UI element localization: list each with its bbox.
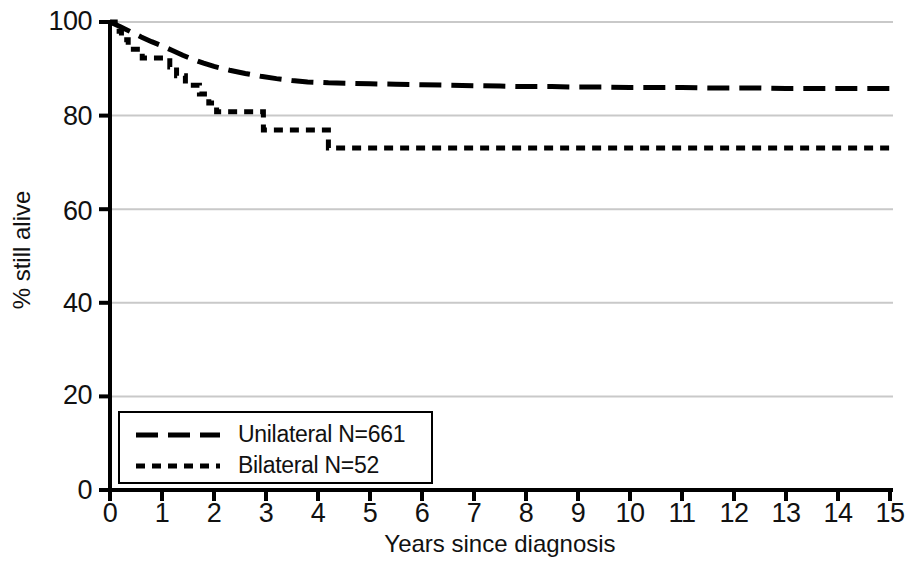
x-tick-label-2: 2 xyxy=(189,500,239,527)
x-tick-label-4: 4 xyxy=(293,500,343,527)
x-tick-label-1: 1 xyxy=(137,500,187,527)
legend-swatch-short-dash-icon xyxy=(134,459,222,473)
y-tick-label-100: 100 xyxy=(20,8,92,35)
x-tick-label-5: 5 xyxy=(345,500,395,527)
x-tick-label-15: 15 xyxy=(865,500,915,527)
series-line-unilateral xyxy=(110,22,890,88)
series-lines xyxy=(110,22,890,148)
x-tick-label-12: 12 xyxy=(709,500,759,527)
x-tick-label-3: 3 xyxy=(241,500,291,527)
legend-label-bilateral: Bilateral N=52 xyxy=(238,454,379,477)
x-tick-label-9: 9 xyxy=(553,500,603,527)
x-tick-label-7: 7 xyxy=(449,500,499,527)
x-tick-label-6: 6 xyxy=(397,500,447,527)
y-tick-label-0: 0 xyxy=(20,477,92,504)
legend-item-unilateral: Unilateral N=661 xyxy=(120,419,431,450)
x-tick-label-13: 13 xyxy=(761,500,811,527)
y-tick-label-80: 80 xyxy=(20,103,92,130)
x-tick-label-8: 8 xyxy=(501,500,551,527)
y-axis-title: % still alive xyxy=(10,170,34,330)
chart-figure: 100 80 60 40 20 0 0 1 2 3 4 5 6 7 8 9 10… xyxy=(0,0,916,565)
x-tick-label-10: 10 xyxy=(605,500,655,527)
legend-swatch-long-dash-icon xyxy=(134,428,222,442)
y-tick-label-20: 20 xyxy=(20,382,92,409)
x-tick-label-14: 14 xyxy=(813,500,863,527)
legend-item-bilateral: Bilateral N=52 xyxy=(120,450,431,481)
legend-label-unilateral: Unilateral N=661 xyxy=(238,423,405,446)
chart-legend: Unilateral N=661 Bilateral N=52 xyxy=(118,411,433,484)
gridlines xyxy=(110,22,893,396)
x-tick-label-0: 0 xyxy=(85,500,135,527)
x-axis-title: Years since diagnosis xyxy=(110,532,890,556)
x-tick-label-11: 11 xyxy=(657,500,707,527)
